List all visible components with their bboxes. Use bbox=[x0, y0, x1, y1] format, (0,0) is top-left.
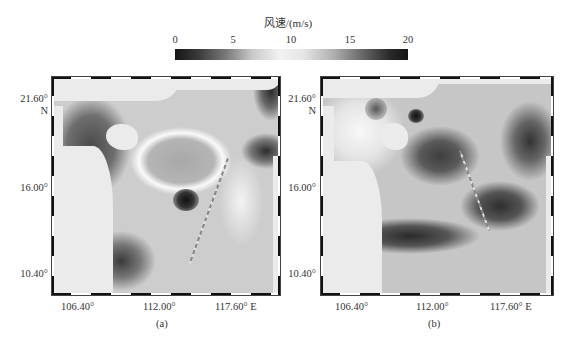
colorbar-tick-10: 10 bbox=[286, 34, 297, 45]
frame-bottom-a bbox=[51, 293, 281, 296]
y-tick-b-21.60: 21.60° bbox=[270, 93, 316, 105]
frame-right-b bbox=[551, 76, 554, 296]
panel-label-a: (a) bbox=[156, 318, 168, 329]
land-north-b bbox=[320, 76, 440, 98]
map-panel-b bbox=[320, 76, 554, 296]
y-tick-b-10.40: 10.40° bbox=[270, 268, 316, 280]
x-tick-a-112.00: 112.00° bbox=[143, 301, 176, 312]
low-wind-spot-b bbox=[408, 109, 424, 123]
frame-left-a bbox=[51, 76, 54, 296]
colorbar-tick-5: 5 bbox=[230, 34, 235, 45]
frame-left-b bbox=[320, 76, 323, 296]
colorbar-tick-20: 20 bbox=[403, 34, 414, 45]
x-tick-a-106.40: 106.40° bbox=[61, 301, 94, 312]
frame-top-a bbox=[51, 76, 281, 79]
y-unit-a: N bbox=[2, 105, 48, 117]
y-tick-a-21.60: 21.60° bbox=[2, 93, 48, 105]
colorbar-title: 风速/(m/s) bbox=[0, 14, 576, 30]
y-tick-a-10.40: 10.40° bbox=[2, 268, 48, 280]
x-tick-b-106.40: 106.40° bbox=[335, 301, 368, 312]
frame-top-b bbox=[320, 76, 554, 79]
x-tick-b-112.00: 112.00° bbox=[416, 301, 449, 312]
y-tick-a-16.00: 16.00° bbox=[2, 182, 48, 194]
y-tick-b-16.00: 16.00° bbox=[270, 182, 316, 194]
panel-label-b: (b) bbox=[428, 318, 440, 329]
land-north-a bbox=[51, 76, 181, 101]
dark-spot-nw-b bbox=[365, 98, 387, 120]
colorbar-tick-0: 0 bbox=[172, 34, 177, 45]
land-hainan-a bbox=[106, 124, 138, 150]
y-unit-b: N bbox=[270, 105, 316, 117]
land-hainan-b bbox=[380, 123, 408, 150]
x-tick-a-117.60: 117.60° E bbox=[215, 301, 257, 312]
map-panel-a bbox=[51, 76, 281, 296]
x-tick-b-117.60: 117.60° E bbox=[490, 301, 532, 312]
frame-bottom-b bbox=[320, 293, 554, 296]
colorbar bbox=[175, 49, 408, 60]
low-wind-spot-a bbox=[173, 189, 199, 211]
colorbar-tick-15: 15 bbox=[345, 34, 356, 45]
